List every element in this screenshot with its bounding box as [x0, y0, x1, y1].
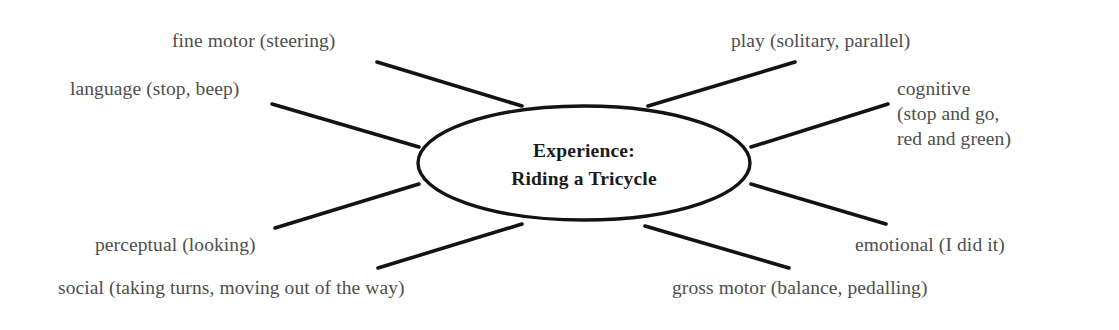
branch-label-cognitive-line2: (stop and go, — [897, 101, 1011, 126]
branch-label-play: play (solitary, parallel) — [731, 28, 910, 53]
branch-label-social: social (taking turns, moving out of the … — [58, 275, 405, 300]
spoke-perceptual — [275, 184, 419, 228]
branch-label-perceptual: perceptual (looking) — [95, 232, 256, 257]
center-ellipse — [418, 106, 750, 220]
spoke-gross-motor — [645, 226, 789, 268]
spoke-social — [378, 224, 522, 268]
spoke-emotional — [751, 184, 886, 224]
branch-label-fine-motor: fine motor (steering) — [172, 28, 335, 53]
center-title-line1: Experience: — [533, 140, 635, 161]
branch-label-emotional: emotional (I did it) — [855, 232, 1005, 257]
mind-map-diagram: Experience: Riding a Tricycle fine motor… — [0, 0, 1119, 330]
branch-label-gross-motor: gross motor (balance, pedalling) — [672, 275, 928, 300]
spoke-language — [272, 104, 419, 147]
branch-label-cognitive: cognitive (stop and go, red and green) — [897, 76, 1011, 151]
spoke-fine-motor — [377, 62, 522, 106]
spoke-cognitive — [751, 104, 888, 147]
center-title-line2: Riding a Tricycle — [511, 168, 657, 189]
spoke-play — [648, 62, 795, 106]
branch-label-cognitive-line3: red and green) — [897, 126, 1011, 151]
branch-label-language: language (stop, beep) — [70, 76, 239, 101]
branch-label-cognitive-line1: cognitive — [897, 76, 1011, 101]
